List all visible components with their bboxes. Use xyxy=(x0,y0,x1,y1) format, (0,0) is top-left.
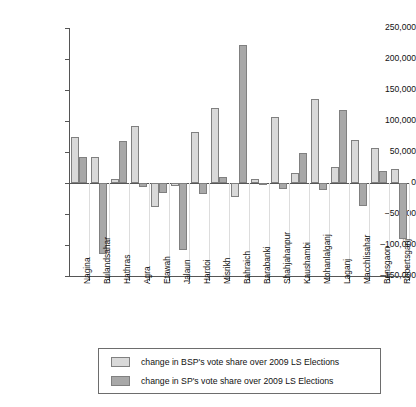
x-axis-label: Barabanki xyxy=(263,246,272,284)
bar-sp xyxy=(359,183,367,206)
legend-swatch-sp xyxy=(111,376,130,386)
legend-label-sp: change in SP's vote share over 2009 LS E… xyxy=(141,376,333,386)
bar-sp xyxy=(239,45,247,183)
x-axis-label: Mohanlalganj xyxy=(323,234,332,284)
bar-bsp xyxy=(231,183,239,197)
y-tick-label: 150,000 xyxy=(354,85,416,94)
bar-bsp xyxy=(171,183,179,186)
bar-bsp xyxy=(191,132,199,183)
bar-sp xyxy=(199,183,207,194)
x-axis-label: Jalaun xyxy=(183,259,192,284)
bar-sp xyxy=(79,157,87,183)
y-axis-line xyxy=(69,28,70,277)
bar-bsp xyxy=(151,183,159,207)
x-axis-label: Bansgaon xyxy=(383,246,392,284)
y-tick-label: 50,000 xyxy=(354,147,416,156)
legend-entry-sp: change in SP's vote share over 2009 LS E… xyxy=(111,374,333,388)
bar-bsp xyxy=(251,179,259,183)
x-axis-label: Etawah xyxy=(163,256,172,284)
x-axis-label: Bahraich xyxy=(243,251,252,284)
bar-sp xyxy=(119,141,127,183)
bar-sp xyxy=(299,153,307,183)
x-axis-line xyxy=(69,276,409,277)
legend-swatch-bsp xyxy=(111,357,130,367)
bar-sp xyxy=(339,110,347,183)
x-axis-label: Robertsganj xyxy=(403,239,412,284)
bar-chart: 250,000200,000150,000100,00050,0000–50,0… xyxy=(0,0,416,407)
bar-bsp xyxy=(291,173,299,183)
x-axis-label: Misrikh xyxy=(223,257,232,284)
x-axis-label: Shahjahanpur xyxy=(283,232,292,284)
bar-sp xyxy=(279,183,287,189)
bar-bsp xyxy=(271,117,279,183)
bar-sp xyxy=(219,177,227,183)
bar-sp xyxy=(259,183,267,185)
bar-bsp xyxy=(311,99,319,183)
y-tick-label: 250,000 xyxy=(354,23,416,32)
bar-bsp xyxy=(331,167,339,183)
y-tick-label: 200,000 xyxy=(354,54,416,63)
bar-bsp xyxy=(391,169,399,183)
bar-bsp xyxy=(371,148,379,183)
bar-bsp xyxy=(111,179,119,183)
x-axis-label: Laganj xyxy=(343,259,352,284)
x-axis-label: Kaushambi xyxy=(303,242,312,284)
zero-baseline xyxy=(69,183,409,184)
bar-sp xyxy=(179,183,187,250)
x-axis-label: Bulandsahar xyxy=(103,237,112,284)
bar-bsp xyxy=(211,108,219,183)
bar-sp xyxy=(159,183,167,193)
bar-bsp xyxy=(91,157,99,183)
gridline xyxy=(149,183,150,276)
x-axis-label: Agra xyxy=(143,266,152,284)
x-axis-label: Nagina xyxy=(83,257,92,284)
x-axis-label: Macchlisahar xyxy=(363,235,372,284)
bar-sp xyxy=(379,171,387,183)
bar-bsp xyxy=(351,140,359,183)
legend: change in BSP's vote share over 2009 LS … xyxy=(98,348,381,394)
bar-bsp xyxy=(131,126,139,183)
x-axis-label: Hathras xyxy=(123,255,132,284)
bar-sp xyxy=(139,183,147,187)
legend-entry-bsp: change in BSP's vote share over 2009 LS … xyxy=(111,355,339,369)
bar-sp xyxy=(319,183,327,190)
x-axis-label: Hardoi xyxy=(203,259,212,284)
bar-sp xyxy=(399,183,407,239)
bar-bsp xyxy=(71,137,79,183)
y-tick-label: 100,000 xyxy=(354,116,416,125)
legend-label-bsp: change in BSP's vote share over 2009 LS … xyxy=(141,357,339,367)
